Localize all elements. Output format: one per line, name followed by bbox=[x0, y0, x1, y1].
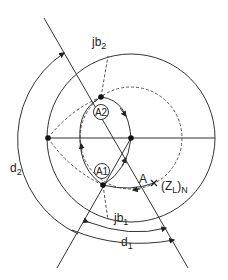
center-dot bbox=[128, 135, 134, 141]
label-a2: A2 bbox=[93, 104, 109, 120]
dashed-arc-left-top bbox=[48, 119, 80, 138]
label-a1: A1 bbox=[94, 163, 110, 179]
dashed-line-jb1 bbox=[103, 185, 108, 220]
smith-chart-svg bbox=[0, 0, 228, 280]
label-d2: d2 bbox=[10, 162, 22, 177]
load-point-cross-icon bbox=[151, 180, 157, 186]
dashed-line-jb2 bbox=[101, 56, 108, 97]
smith-chart-diagram: jb2 d2 jb1 d1 A (ZL)N A2 A1 bbox=[0, 0, 228, 280]
left-dot bbox=[45, 135, 51, 141]
label-a: A bbox=[139, 173, 147, 185]
arrow-a2-center bbox=[120, 108, 126, 116]
label-jb1: jb1 bbox=[114, 212, 128, 227]
a2-dot bbox=[98, 94, 104, 100]
label-zl-n: (ZL)N bbox=[161, 180, 188, 195]
label-d1: d1 bbox=[121, 236, 133, 251]
arc-d2 bbox=[18, 53, 78, 234]
radial-line-d1 bbox=[57, 138, 131, 268]
a1-dot bbox=[100, 182, 106, 188]
label-jb2: jb2 bbox=[92, 36, 106, 51]
